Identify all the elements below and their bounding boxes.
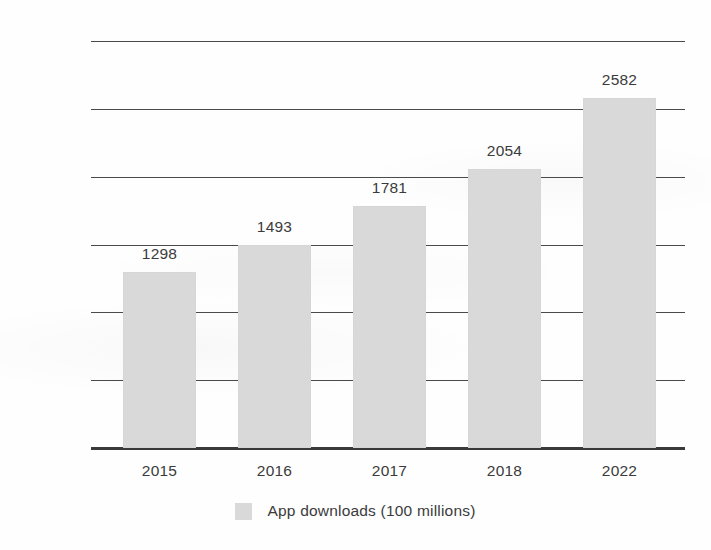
x-axis-tick-label: 2015 <box>109 462 210 480</box>
x-axis-tick-label: 2016 <box>224 462 325 480</box>
bar-value-label: 2054 <box>454 142 555 160</box>
bar <box>583 98 656 448</box>
bar-value-label: 1781 <box>339 179 440 197</box>
bar-value-label: 2582 <box>569 71 670 89</box>
gridline <box>91 41 685 42</box>
x-axis-tick-label: 2017 <box>339 462 440 480</box>
bar-value-label: 1493 <box>224 218 325 236</box>
bar <box>468 169 541 448</box>
legend-color-swatch <box>235 503 252 520</box>
bar-chart-figure: 050010001500200025003000 129814931781205… <box>0 0 711 550</box>
bar-value-label: 1298 <box>109 245 210 263</box>
x-axis-tick-label: 2022 <box>569 462 670 480</box>
bar <box>353 206 426 448</box>
chart-legend: App downloads (100 millions) <box>0 496 711 526</box>
legend-entry-label: App downloads (100 millions) <box>267 502 475 520</box>
bar <box>238 245 311 448</box>
bar <box>123 272 196 448</box>
x-axis-tick-label: 2018 <box>454 462 555 480</box>
plot-area: 050010001500200025003000 129814931781205… <box>91 41 685 448</box>
